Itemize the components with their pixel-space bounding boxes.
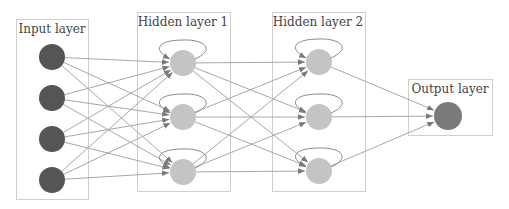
hidden2-node-0 xyxy=(306,49,332,75)
output-node-0 xyxy=(434,102,462,130)
edge-input-1-to-hidden1-0 xyxy=(65,67,170,95)
input-node-3 xyxy=(39,167,65,193)
hidden1-node-2 xyxy=(170,159,196,185)
output-layer-label: Output layer xyxy=(411,82,488,96)
input-node-1 xyxy=(39,85,65,111)
neural-network-diagram: Input layer Hidden layer 1 Hidden layer … xyxy=(0,0,509,209)
edge-input-0-to-hidden1-1 xyxy=(64,62,170,111)
edge-hidden2-1-to-output-0 xyxy=(332,116,433,117)
hidden-layer-1-label: Hidden layer 1 xyxy=(138,15,228,29)
hidden1-node-0 xyxy=(170,50,196,76)
edge-hidden1-0-to-hidden2-0 xyxy=(196,62,305,63)
edge-input-0-to-hidden1-0 xyxy=(65,58,169,63)
input-node-2 xyxy=(39,126,65,152)
hidden1-node-1 xyxy=(170,104,196,130)
input-layer-label: Input layer xyxy=(18,22,85,36)
hidden2-node-2 xyxy=(306,158,332,184)
edge-hidden1-2-to-hidden2-2 xyxy=(196,171,305,172)
hidden2-node-1 xyxy=(306,104,332,130)
edge-hidden1-2-to-hidden2-1 xyxy=(195,122,306,167)
edge-hidden2-2-to-output-0 xyxy=(331,122,434,166)
edge-hidden1-1-to-hidden2-2 xyxy=(195,122,306,166)
edge-input-2-to-hidden1-0 xyxy=(63,70,171,132)
input-node-0 xyxy=(39,44,65,70)
edge-input-3-to-hidden1-2 xyxy=(65,173,169,179)
hidden-layer-2-label: Hidden layer 2 xyxy=(273,15,363,29)
edge-input-3-to-hidden1-1 xyxy=(64,123,171,174)
edge-input-1-to-hidden1-1 xyxy=(65,100,169,115)
